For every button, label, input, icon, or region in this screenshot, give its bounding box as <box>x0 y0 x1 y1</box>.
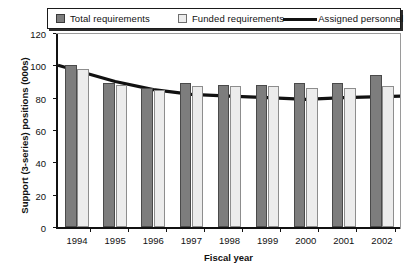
y-axis-tick-label: 100 <box>30 61 46 72</box>
bar-total-requirements-1996 <box>141 88 152 227</box>
y-axis-tick: 60 <box>53 130 58 131</box>
x-axis-title: Fiscal year <box>56 252 401 263</box>
y-axis-tick: 0 <box>53 227 58 228</box>
legend-item-assigned-personnel: Assigned personnel <box>318 9 403 28</box>
bar-funded-requirements-1998 <box>230 86 241 227</box>
x-axis-tick <box>318 227 319 232</box>
x-axis-tick <box>204 227 205 232</box>
bar-total-requirements-1999 <box>256 85 267 227</box>
x-axis-tick <box>242 227 243 232</box>
dark-square-swatch-icon <box>56 14 65 23</box>
x-axis-tick <box>356 227 357 232</box>
bar-funded-requirements-1997 <box>192 86 203 227</box>
y-axis-tick: 80 <box>53 98 58 99</box>
x-axis-tick <box>280 227 281 232</box>
bar-total-requirements-1995 <box>103 83 114 227</box>
x-axis-tick-label: 1998 <box>219 235 240 246</box>
bar-funded-requirements-1999 <box>268 86 279 227</box>
y-axis-tick-label: 20 <box>35 190 46 201</box>
y-axis-tick: 120 <box>53 33 58 34</box>
legend-label-funded-requirements: Funded requirements <box>192 13 284 24</box>
y-axis-tick: 40 <box>53 162 58 163</box>
x-axis-tick <box>90 227 91 232</box>
bar-funded-requirements-2001 <box>344 88 355 227</box>
light-square-swatch-icon <box>178 14 187 23</box>
bar-total-requirements-2001 <box>332 83 343 227</box>
chart-container: Total requirements Funded requirements A… <box>0 0 418 272</box>
y-axis-title: Support (3-series) positions (000s) <box>19 36 30 236</box>
y-axis-tick-label: 120 <box>30 29 46 40</box>
bar-total-requirements-1994 <box>65 65 76 227</box>
x-axis-tick <box>166 227 167 232</box>
chart-legend: Total requirements Funded requirements A… <box>47 8 401 29</box>
bar-funded-requirements-1996 <box>154 90 165 227</box>
bar-total-requirements-1997 <box>180 83 191 227</box>
x-axis-tick-label: 2002 <box>371 235 392 246</box>
x-axis-tick <box>395 227 396 232</box>
y-axis-tick-label: 60 <box>35 126 46 137</box>
x-axis-tick-label: 2001 <box>333 235 354 246</box>
x-axis-tick-label: 1997 <box>181 235 202 246</box>
legend-item-funded-requirements: Funded requirements <box>178 9 284 28</box>
x-axis-tick <box>128 227 129 232</box>
bar-total-requirements-2000 <box>294 83 305 227</box>
legend-item-total-requirements: Total requirements <box>56 9 150 28</box>
legend-label-total-requirements: Total requirements <box>70 13 150 24</box>
y-axis-tick: 100 <box>53 65 58 66</box>
y-axis-tick-label: 80 <box>35 93 46 104</box>
bar-funded-requirements-1994 <box>77 69 88 227</box>
x-axis-tick-label: 2000 <box>295 235 316 246</box>
y-axis-tick: 20 <box>53 195 58 196</box>
bar-total-requirements-2002 <box>370 75 381 227</box>
y-axis-tick-label: 40 <box>35 158 46 169</box>
y-axis-tick-label: 0 <box>41 223 46 234</box>
x-axis-tick-label: 1999 <box>257 235 278 246</box>
x-axis-tick-label: 1996 <box>143 235 164 246</box>
bar-funded-requirements-2000 <box>306 88 317 227</box>
bar-funded-requirements-2002 <box>382 86 393 227</box>
legend-label-assigned-personnel: Assigned personnel <box>318 13 403 24</box>
x-axis-tick-label: 1994 <box>66 235 87 246</box>
legend-line-sample <box>283 18 317 21</box>
bar-funded-requirements-1995 <box>116 85 127 227</box>
bar-total-requirements-1998 <box>218 85 229 227</box>
x-axis-tick-label: 1995 <box>105 235 126 246</box>
plot-area: 0204060801001201994199519961997199819992… <box>56 33 401 229</box>
